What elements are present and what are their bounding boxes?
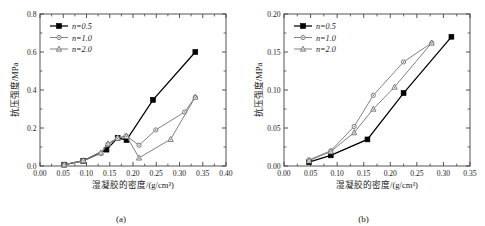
data-point	[117, 138, 118, 139]
data-point	[394, 87, 395, 88]
legend-marker	[56, 46, 61, 51]
legend-marker	[58, 37, 60, 39]
data-point	[184, 111, 186, 113]
y-tick-label: 0.20	[267, 10, 280, 19]
data-point	[107, 143, 108, 144]
panel-a-plot: 0.000.050.100.150.200.250.300.350.400.00…	[0, 0, 242, 226]
legend-label: n=2.0	[316, 45, 336, 54]
data-point	[308, 160, 309, 161]
panel-a: 0.000.050.100.150.200.250.300.350.400.00…	[0, 0, 242, 226]
data-point	[170, 139, 171, 140]
legend-marker	[302, 49, 303, 50]
x-tick-label: 0.35	[196, 169, 209, 178]
y-tick-label: 0.15	[267, 48, 280, 57]
data-point	[63, 164, 64, 165]
legend-marker	[57, 24, 62, 29]
legend-marker	[58, 49, 59, 50]
y-tick-label: 0.05	[267, 124, 280, 133]
series-line	[309, 43, 432, 161]
x-tick-label: 0.15	[103, 169, 116, 178]
y-tick-label: 0.10	[267, 86, 280, 95]
panel-b-plot: 0.000.050.100.150.200.250.300.350.000.05…	[242, 0, 485, 226]
legend-entry-n=2.0: n=2.0	[294, 45, 336, 54]
y-tick-label: 0.0	[27, 162, 37, 171]
x-tick-label: 0.15	[357, 169, 370, 178]
data-point	[151, 97, 156, 102]
x-axis-label: 湿凝胶的密度/(g/cm³)	[336, 179, 418, 190]
data-point	[401, 91, 406, 96]
legend-marker	[302, 37, 304, 39]
figure-container: 0.000.050.100.150.200.250.300.350.400.00…	[0, 0, 485, 226]
data-point	[372, 95, 374, 97]
data-point	[138, 144, 140, 146]
y-tick-label: 0.00	[267, 162, 280, 171]
series-n=1.0	[62, 95, 197, 167]
x-tick-label: 0.05	[304, 169, 317, 178]
legend-label: n=0.5	[316, 22, 336, 31]
legend-label: n=0.5	[72, 22, 92, 31]
data-point	[126, 136, 127, 137]
legend-label: n=2.0	[72, 45, 92, 54]
legend-entry-n=0.5: n=0.5	[50, 22, 92, 31]
panel-a-caption: (a)	[0, 214, 242, 224]
data-point	[330, 151, 331, 152]
legend-entry-n=1.0: n=1.0	[294, 34, 336, 43]
y-axis-label: 抗压强度/MPa	[9, 63, 20, 118]
series-n=2.0	[306, 40, 434, 163]
x-axis-label: 湿凝胶的密度/(g/cm³)	[92, 179, 174, 190]
y-tick-label: 0.4	[27, 86, 37, 95]
data-point	[100, 152, 101, 153]
x-tick-label: 0.30	[173, 169, 186, 178]
x-tick-label: 0.35	[463, 169, 476, 178]
legend-marker	[300, 46, 305, 51]
data-point	[155, 129, 157, 131]
data-point	[195, 97, 196, 98]
legend-entry-n=2.0: n=2.0	[50, 45, 92, 54]
series-n=2.0	[62, 94, 198, 167]
data-point	[449, 34, 454, 39]
y-axis-label: 抗压强度/MPa	[253, 63, 264, 118]
series-line	[64, 52, 195, 165]
panel-b-caption: (b)	[242, 214, 485, 224]
data-point	[193, 50, 198, 55]
data-point	[138, 158, 139, 159]
legend-label: n=1.0	[316, 34, 336, 43]
data-point	[353, 126, 355, 128]
series-line	[309, 37, 451, 162]
y-tick-label: 0.8	[27, 10, 37, 19]
series-n=0.5	[62, 50, 198, 167]
x-tick-label: 0.40	[219, 169, 232, 178]
plot-frame	[284, 14, 470, 166]
legend-entry-n=0.5: n=0.5	[294, 22, 336, 31]
data-point	[365, 137, 370, 142]
legend-entry-n=1.0: n=1.0	[50, 34, 92, 43]
panel-b: 0.000.050.100.150.200.250.300.350.000.05…	[242, 0, 485, 226]
data-point	[431, 43, 432, 44]
x-tick-label: 0.10	[330, 169, 343, 178]
x-tick-label: 0.10	[80, 169, 93, 178]
x-tick-label: 0.25	[410, 169, 423, 178]
data-point	[353, 132, 354, 133]
data-point	[373, 109, 374, 110]
series-n=1.0	[307, 41, 434, 162]
x-tick-label: 0.30	[437, 169, 450, 178]
x-tick-label: 0.20	[384, 169, 397, 178]
x-tick-label: 0.05	[57, 169, 70, 178]
legend-marker	[301, 24, 306, 29]
series-line	[64, 97, 195, 165]
y-tick-label: 0.2	[27, 124, 37, 133]
y-tick-label: 0.6	[27, 48, 37, 57]
data-point	[403, 61, 405, 63]
plot-frame	[40, 14, 226, 166]
x-tick-label: 0.20	[126, 169, 139, 178]
data-point	[83, 160, 84, 161]
legend-label: n=1.0	[72, 34, 92, 43]
series-line	[309, 43, 432, 160]
x-tick-label: 0.25	[150, 169, 163, 178]
